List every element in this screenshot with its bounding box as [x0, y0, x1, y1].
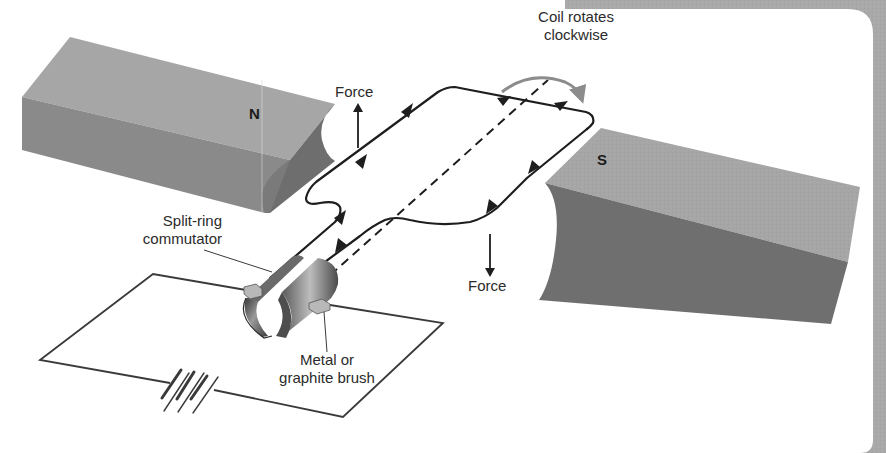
north-pole-label: N	[249, 105, 260, 122]
force-label-top: Force	[335, 83, 373, 101]
force-label-bottom: Force	[468, 277, 506, 295]
brush-left	[244, 284, 262, 299]
commutator-label-line2: commutator	[118, 230, 222, 248]
south-pole-label: S	[597, 151, 607, 168]
rotation-label: Coil rotates clockwise	[518, 8, 634, 44]
commutator-label-line1: Split-ring	[118, 212, 222, 230]
brush-label-line1: Metal or	[263, 351, 391, 369]
motor-diagram: N S Force Force Coil rotates clockwise S…	[0, 0, 886, 453]
brush-label: Metal or graphite brush	[263, 351, 391, 387]
brush-label-line2: graphite brush	[263, 369, 391, 387]
rotation-label-line1: Coil rotates	[518, 8, 634, 26]
rotation-label-line2: clockwise	[518, 26, 634, 44]
commutator-label: Split-ring commutator	[118, 212, 222, 248]
